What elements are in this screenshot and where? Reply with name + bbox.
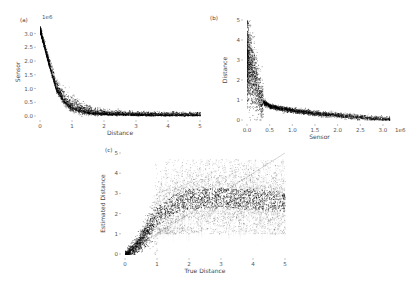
panel-b-points [247, 20, 390, 120]
x-offset-label: 1e6 [395, 127, 406, 133]
x-axis-label: True Distance [184, 267, 226, 274]
y-tick-label: 2.0 [24, 58, 33, 64]
axes-c: (c)012345012345True DistanceEstimated Di… [99, 147, 287, 274]
y-tick-label: 5 [115, 150, 119, 156]
x-tick-label: 2.0 [333, 127, 342, 133]
y-tick-label: 4 [237, 37, 241, 43]
x-tick-label: 1 [70, 123, 74, 129]
y-tick-label: 4 [115, 170, 119, 176]
x-tick-label: 5 [198, 123, 202, 129]
x-tick-label: 1 [155, 261, 159, 267]
y-tick-label: 2 [115, 211, 119, 217]
y-tick-label: 3 [115, 190, 119, 196]
x-tick-label: 4 [166, 123, 170, 129]
y-tick-label: 0 [115, 251, 119, 257]
x-tick-label: 0 [123, 261, 127, 267]
y-axis-label: Estimated Distance [99, 174, 106, 233]
x-axis-label: Sensor [309, 133, 330, 140]
axes-a: (a)0123450.00.51.01.52.02.53.0DistanceSe… [14, 14, 202, 136]
y-tick-label: 1 [115, 231, 119, 237]
x-tick-label: 5 [283, 261, 287, 267]
panel-label: (c) [105, 147, 112, 153]
x-tick-label: 2 [102, 123, 106, 129]
y-tick-label: 3.0 [24, 31, 33, 37]
y-tick-label: 3 [237, 57, 241, 63]
x-tick-label: 3.0 [379, 127, 388, 133]
y-axis-label: Distance [221, 57, 228, 84]
y-offset-label: 1e6 [42, 14, 53, 20]
figure: (a)0123450.00.51.01.52.02.53.0DistanceSe… [0, 0, 418, 284]
panel-a-points [40, 26, 201, 117]
y-tick-label: 1.0 [24, 86, 33, 92]
x-tick-label: 0.0 [243, 127, 252, 133]
y-tick-label: 2.5 [24, 44, 33, 50]
y-tick-label: 0 [237, 117, 241, 123]
x-tick-label: 1.0 [288, 127, 297, 133]
y-tick-label: 5 [237, 17, 241, 23]
panel-label: (b) [210, 15, 218, 21]
y-tick-label: 2 [237, 77, 241, 83]
x-tick-label: 2.5 [356, 127, 365, 133]
y-tick-label: 0.0 [24, 113, 33, 119]
x-tick-label: 0.5 [265, 127, 274, 133]
axes-layer: (a)0123450.00.51.01.52.02.53.0DistanceSe… [14, 14, 406, 274]
y-axis-label: Sensor [14, 61, 21, 82]
y-tick-label: 1 [237, 97, 241, 103]
panel-label: (a) [20, 17, 28, 23]
axes-b: (b)0.00.51.01.52.02.53.0012345SensorDist… [210, 15, 406, 140]
y-tick-label: 1.5 [24, 72, 33, 78]
x-tick-label: 4 [251, 261, 255, 267]
y-tick-label: 0.5 [24, 99, 33, 105]
x-tick-label: 3 [134, 123, 138, 129]
x-tick-label: 0 [38, 123, 42, 129]
x-axis-label: Distance [107, 129, 134, 136]
panel-c-points [125, 153, 286, 255]
